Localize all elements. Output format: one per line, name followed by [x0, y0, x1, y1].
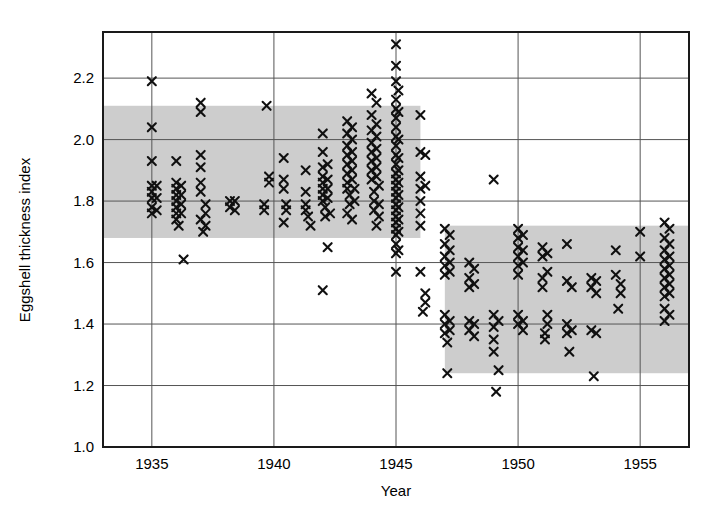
- y-tick-label-1.0: 1.0: [73, 438, 94, 455]
- data-point-marker: [590, 372, 598, 380]
- figure-root: 19351940194519501955 1.01.21.41.61.82.02…: [0, 0, 721, 532]
- data-point-marker: [372, 99, 380, 107]
- data-point-marker: [319, 286, 327, 294]
- data-point-marker: [419, 308, 427, 316]
- y-axis-title: Eggshell thickness index: [16, 157, 33, 322]
- data-point-marker: [421, 289, 429, 297]
- data-point-marker: [492, 388, 500, 396]
- data-point-marker: [197, 99, 205, 107]
- data-point-marker: [421, 299, 429, 307]
- y-tick-label-1.4: 1.4: [73, 315, 94, 332]
- data-point-marker: [324, 243, 332, 251]
- x-tick-label-1955: 1955: [623, 455, 656, 472]
- x-tick-label-1945: 1945: [379, 455, 412, 472]
- eggshell-thickness-scatter-chart: 19351940194519501955 1.01.21.41.61.82.02…: [0, 0, 721, 532]
- x-tick-label-1940: 1940: [257, 455, 290, 472]
- y-tick-label-2.0: 2.0: [73, 131, 94, 148]
- y-tick-label-1.2: 1.2: [73, 377, 94, 394]
- normal-range-band-2: [445, 226, 689, 374]
- x-tick-label-1935: 1935: [135, 455, 168, 472]
- y-tick-label-1.6: 1.6: [73, 254, 94, 271]
- data-point-marker: [490, 176, 498, 184]
- y-axis-tick-labels: 1.01.21.41.61.82.02.2: [73, 69, 94, 455]
- y-tick-label-1.8: 1.8: [73, 192, 94, 209]
- x-axis-tick-labels: 19351940194519501955: [135, 455, 657, 472]
- x-axis-title: Year: [381, 482, 411, 499]
- x-tick-label-1950: 1950: [501, 455, 534, 472]
- y-tick-label-2.2: 2.2: [73, 69, 94, 86]
- data-point-marker: [416, 268, 424, 276]
- data-point-marker: [368, 89, 376, 97]
- chart-canvas: 19351940194519501955 1.01.21.41.61.82.02…: [0, 0, 721, 532]
